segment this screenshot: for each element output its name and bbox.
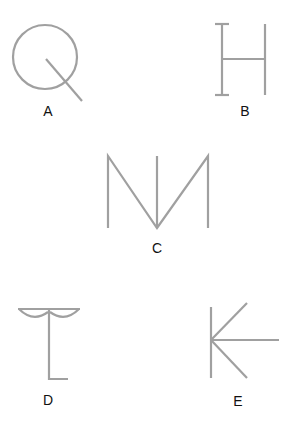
figure-b: B — [215, 24, 265, 119]
figure-e-upper-ray — [211, 303, 247, 340]
figure-a: A — [13, 25, 82, 119]
figure-c: C — [108, 156, 208, 256]
figure-d-right-arc — [50, 309, 79, 317]
figure-b-label: B — [240, 103, 249, 119]
figure-diagram: A B C D E — [0, 0, 298, 434]
figure-d-left-arc — [19, 309, 48, 317]
figure-a-label: A — [43, 103, 53, 119]
figure-e-label: E — [233, 393, 242, 409]
figure-e: E — [211, 303, 279, 409]
figure-d: D — [18, 309, 80, 408]
figure-d-stem-foot — [49, 309, 68, 379]
figure-c-label: C — [152, 240, 162, 256]
figure-d-label: D — [43, 392, 53, 408]
figure-a-circle — [13, 25, 77, 89]
figure-e-lower-ray — [211, 340, 247, 378]
